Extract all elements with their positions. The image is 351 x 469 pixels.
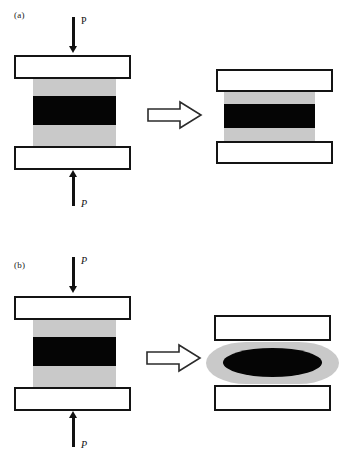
load-arrow-top-a (69, 17, 78, 53)
specimen-core-a-before (33, 96, 116, 125)
transition-arrow-b (146, 343, 202, 373)
panel-a-label: (a) (14, 10, 25, 20)
transition-arrow-a (147, 100, 203, 130)
specimen-a-before (33, 79, 116, 146)
load-label-top-a: P (81, 15, 87, 26)
load-label-bottom-b: P (81, 439, 87, 450)
specimen-core-a-after (224, 104, 315, 128)
platen-lower-a-before (14, 146, 131, 170)
specimen-b-before (33, 320, 116, 387)
load-arrow-bottom-b (69, 411, 78, 447)
platen-upper-b-before (14, 296, 131, 320)
specimen-core-ellipse-b-after (223, 348, 322, 377)
platen-lower-b-after (214, 385, 331, 411)
load-arrow-bottom-a (69, 170, 78, 206)
specimen-a-after (224, 92, 315, 141)
figure-caption (0, 463, 351, 469)
platen-upper-a-after (216, 69, 333, 92)
panel-b: (b) P P (0, 235, 351, 469)
load-label-bottom-a: P (81, 198, 87, 209)
load-label-top-b: P (81, 255, 87, 266)
platen-upper-a-before (14, 55, 131, 79)
specimen-b-after (206, 342, 339, 384)
specimen-core-b-before (33, 337, 116, 366)
platen-upper-b-after (214, 315, 331, 341)
figure-canvas: (a) P P (0, 0, 351, 469)
load-arrow-top-b (69, 257, 78, 293)
panel-b-label: (b) (14, 260, 25, 270)
platen-lower-b-before (14, 387, 131, 411)
platen-lower-a-after (216, 141, 333, 164)
panel-a: (a) P P (0, 0, 351, 235)
